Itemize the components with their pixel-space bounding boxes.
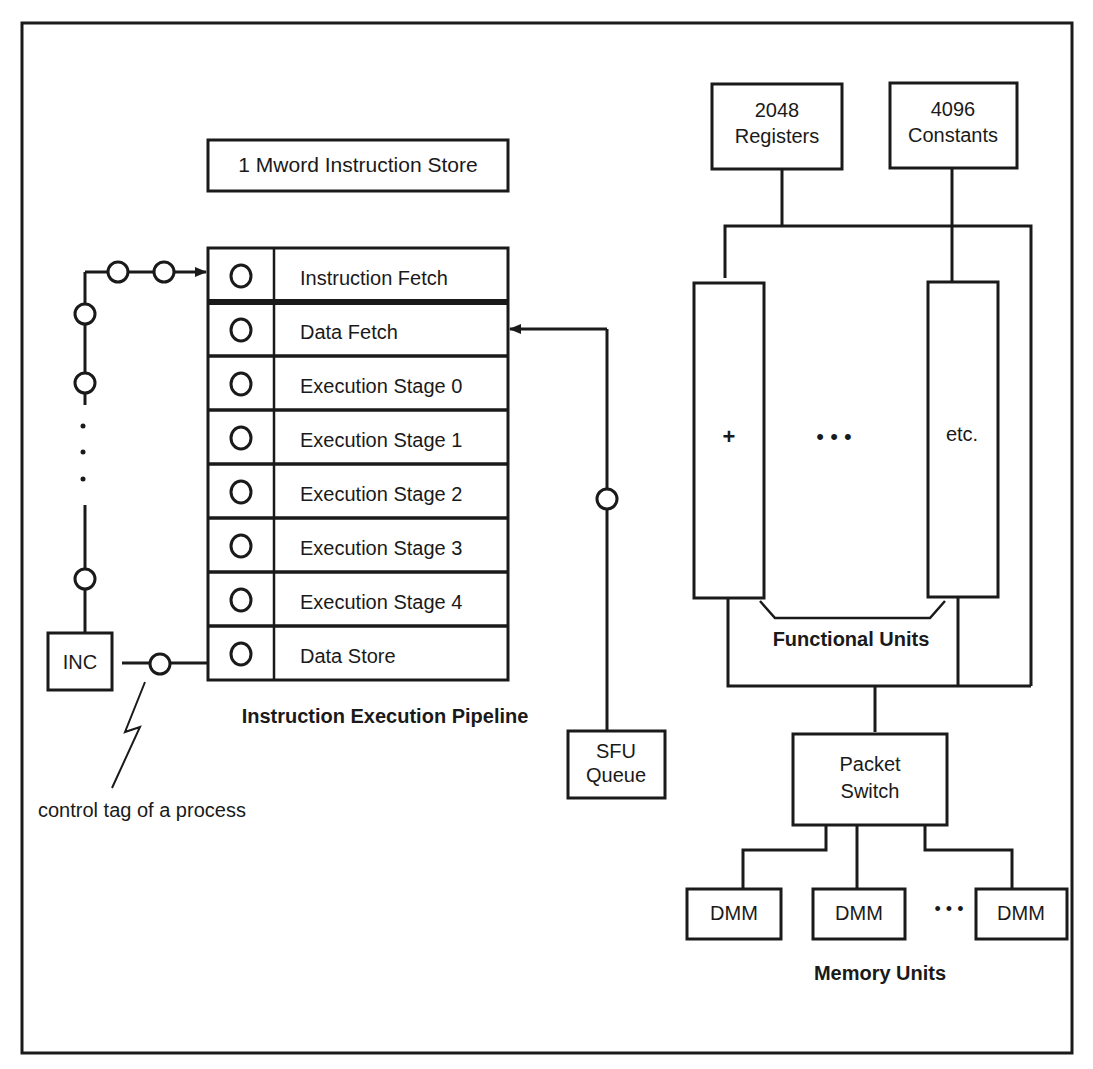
instruction-store-label: 1 Mword Instruction Store (238, 153, 477, 176)
instruction-store-box: 1 Mword Instruction Store (208, 140, 508, 191)
slot-circle-icon (231, 643, 251, 665)
memory-ellipsis: • • • (935, 899, 964, 919)
memory-bus (743, 825, 1012, 888)
packet-switch-line2: Switch (841, 780, 900, 802)
slot-circle-icon (231, 535, 251, 557)
constants-label: Constants (908, 124, 998, 146)
stage-label-exec-0: Execution Stage 0 (300, 375, 462, 397)
memory-units-title: Memory Units (814, 962, 946, 984)
hep-architecture-diagram: 1 Mword Instruction Store Instruction Fe… (0, 0, 1093, 1069)
token-icon (75, 373, 95, 393)
packet-switch-line1: Packet (839, 753, 901, 775)
outer-frame (22, 23, 1072, 1053)
slot-circle-icon (231, 265, 251, 287)
instruction-pipeline: Instruction Fetch Data Fetch Execution S… (208, 248, 528, 727)
token-icon (75, 304, 95, 324)
other-unit-label: etc. (946, 423, 978, 445)
functional-units: + • • • etc. Functional Units (694, 282, 998, 650)
control-tag-label: control tag of a process (38, 799, 246, 821)
slot-circle-icon (231, 427, 251, 449)
sfu-queue-box: SFU Queue (568, 731, 665, 798)
adder-unit-label: + (723, 424, 736, 449)
constants-box: 4096 Constants (890, 83, 1017, 168)
dmm-box-3: DMM (976, 889, 1067, 939)
inc-label: INC (63, 651, 97, 673)
slot-circle-icon (231, 589, 251, 611)
slot-circle-icon (231, 373, 251, 395)
units-ellipsis: • • • (816, 424, 851, 449)
stage-label-exec-2: Execution Stage 2 (300, 483, 462, 505)
dmm-label-1: DMM (710, 902, 758, 924)
token-icon (108, 262, 128, 282)
registers-label: Registers (735, 125, 819, 147)
sfu-queue-label-line1: SFU (596, 740, 636, 762)
registers-count: 2048 (755, 99, 800, 121)
control-tag-token-icon (150, 654, 170, 674)
stage-label-data-fetch: Data Fetch (300, 321, 398, 343)
sfu-queue-label-line2: Queue (586, 764, 646, 786)
stage-label-data-store: Data Store (300, 645, 396, 667)
process-feedback-loop (85, 272, 208, 663)
functional-units-bracket (760, 601, 945, 618)
dmm-label-3: DMM (997, 902, 1045, 924)
dmm-label-2: DMM (835, 902, 883, 924)
pipeline-title: Instruction Execution Pipeline (242, 705, 529, 727)
dmm-box-2: DMM (813, 889, 905, 939)
stage-label-exec-3: Execution Stage 3 (300, 537, 462, 559)
dmm-box-1: DMM (687, 889, 781, 939)
inc-box: INC (48, 633, 112, 690)
stage-label-exec-4: Execution Stage 4 (300, 591, 462, 613)
sfu-token-icon (597, 489, 617, 509)
sfu-return-path (510, 329, 607, 730)
functional-units-title: Functional Units (773, 628, 930, 650)
constants-count: 4096 (931, 98, 976, 120)
slot-circle-icon (231, 481, 251, 503)
packet-switch-box: Packet Switch (793, 734, 947, 825)
lightning-pointer-icon (112, 682, 145, 788)
token-circles (75, 262, 174, 674)
token-icon (154, 262, 174, 282)
stage-label-exec-1: Execution Stage 1 (300, 429, 462, 451)
token-icon (75, 569, 95, 589)
stage-label-instruction-fetch: Instruction Fetch (300, 267, 448, 289)
slot-circle-icon (231, 319, 251, 341)
registers-box: 2048 Registers (712, 84, 842, 169)
vertical-ellipsis-icon (81, 424, 86, 482)
